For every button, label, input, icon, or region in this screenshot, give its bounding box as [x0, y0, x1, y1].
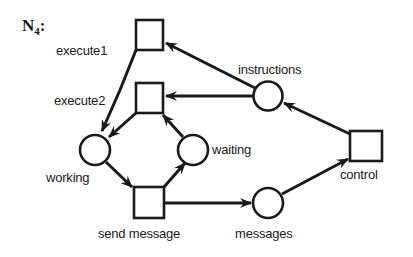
edge-send-message-waiting [164, 163, 185, 187]
place-instructions [254, 82, 283, 111]
label-waiting: waiting [212, 142, 251, 157]
edge-working-send-message [106, 162, 132, 187]
edge-execute2-working [109, 113, 136, 137]
diagram-title: N4: [22, 16, 45, 37]
transition-send-message [134, 187, 164, 218]
transition-control [350, 131, 382, 161]
petri-net-diagram [0, 0, 413, 257]
edge-control-instructions [284, 103, 350, 134]
transition-execute1 [136, 20, 163, 50]
label-control: control [340, 167, 378, 182]
label-execute2: execute2 [54, 93, 105, 108]
edge-waiting-execute2 [163, 115, 183, 137]
title-suffix: : [40, 16, 46, 35]
transition-execute2 [136, 83, 163, 113]
label-execute1: execute1 [56, 43, 107, 58]
label-instructions: instructions [238, 62, 301, 77]
place-waiting [178, 135, 208, 165]
place-messages [253, 188, 283, 218]
label-send-message: send message [98, 226, 180, 241]
edge-messages-control [282, 159, 348, 194]
title-main: N [22, 16, 34, 35]
label-working: working [46, 170, 89, 185]
label-messages: messages [235, 226, 293, 241]
place-working [80, 135, 110, 165]
